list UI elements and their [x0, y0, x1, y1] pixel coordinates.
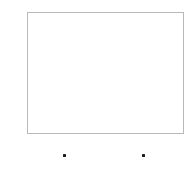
air-output-marker-icon [142, 154, 145, 157]
legend [27, 148, 184, 162]
legend-entry-resin-input [63, 154, 69, 157]
legend-entry-air-output [142, 154, 148, 157]
mesh-figure [0, 0, 195, 170]
mesh-plot [28, 13, 185, 135]
plot-axes [27, 12, 184, 134]
resin-input-marker-icon [63, 154, 66, 157]
